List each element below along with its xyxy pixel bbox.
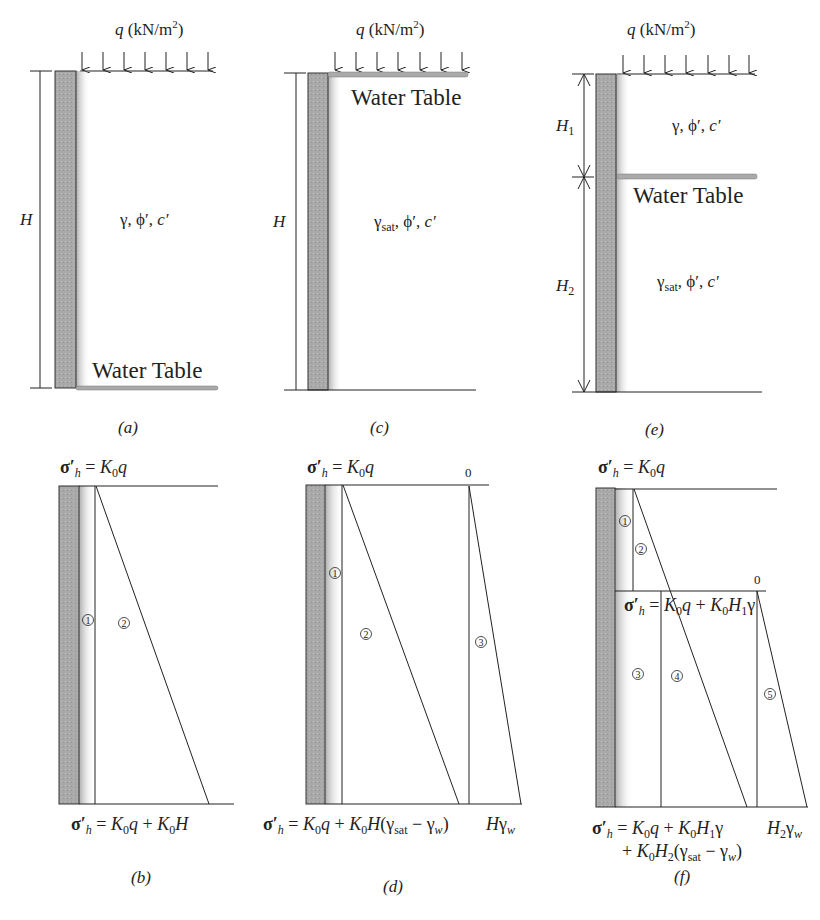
mid-zero: 0 <box>754 572 761 587</box>
pressure-diagram <box>615 489 808 807</box>
bottom-equation-line2: + K0H2(γsat − γw) <box>622 841 742 864</box>
panel-a: q (kN/m2) H γ, ϕ′, c′ Water Table (a) <box>19 18 218 437</box>
svg-text:3: 3 <box>636 669 641 680</box>
load-label: q (kN/m2) <box>627 18 695 39</box>
retaining-wall <box>308 73 328 390</box>
svg-text:2: 2 <box>639 544 644 555</box>
lateral-earth-pressure-figure: q (kN/m2) H γ, ϕ′, c′ Water Table (a) q … <box>0 0 820 920</box>
wall-shadow <box>76 71 90 388</box>
svg-text:3: 3 <box>479 637 484 648</box>
soil-props: γsat, ϕ′, c′ <box>373 212 436 234</box>
bottom-equation-line1: σ′h = K0q + K0H1γ <box>592 818 723 841</box>
top-equation: σ′h = K0q <box>598 457 665 480</box>
load-label: q (kN/m2) <box>115 18 183 39</box>
retaining-wall <box>55 71 76 388</box>
surcharge-arrows-icon <box>335 52 462 70</box>
bottom-water-pressure: H2γw <box>766 818 802 841</box>
wall-shadow <box>325 485 343 804</box>
retaining-wall <box>59 486 79 804</box>
top-equation: σ′h = K0q <box>60 457 127 480</box>
height-label: H <box>272 212 287 231</box>
retaining-wall <box>306 485 325 804</box>
pressure-diagram <box>325 485 522 804</box>
height-dimension <box>30 71 52 388</box>
caption-a: (a) <box>118 418 138 437</box>
caption-f: (f) <box>674 867 690 886</box>
height-label-h2: H2 <box>555 276 574 298</box>
panel-d: σ′h = K0q 0 1 2 3 σ′h = K0q + K0H(γsat −… <box>263 457 522 896</box>
svg-text:1: 1 <box>333 568 338 579</box>
water-table-line <box>617 174 757 179</box>
pressure-diagram <box>79 486 234 804</box>
retaining-wall <box>596 74 616 392</box>
wall-shadow <box>328 73 342 390</box>
panel-c: q (kN/m2) Water Table H γsat, ϕ′, c′ (c) <box>272 18 476 437</box>
water-table-label: Water Table <box>92 358 202 383</box>
panel-f: σ′h = K0q 1 2 3 4 5 0 σ′h = K0q + K0H1γ <box>592 457 808 886</box>
height-label: H <box>19 210 34 229</box>
soil-props-upper: γ, ϕ′, c′ <box>671 116 721 135</box>
top-zero: 0 <box>465 465 472 480</box>
caption-d: (d) <box>383 877 403 896</box>
load-label: q (kN/m2) <box>356 18 424 39</box>
svg-text:5: 5 <box>768 689 773 700</box>
height-label-h1: H1 <box>555 116 574 138</box>
top-equation: σ′h = K0q <box>307 457 374 480</box>
bottom-equation: σ′h = K0q + K0H <box>71 814 189 837</box>
wall-shadow <box>615 488 633 807</box>
zone-markers: 1 2 3 <box>330 568 487 648</box>
panel-e: q (kN/m2) Water Table H1 H2 γ, ϕ′, c′ <box>555 18 762 439</box>
panel-b: σ′h = K0q 1 2 σ′h = K0q + K0H (b) <box>59 457 234 887</box>
retaining-wall <box>596 488 615 807</box>
svg-text:1: 1 <box>623 516 628 527</box>
svg-text:2: 2 <box>122 618 127 629</box>
bottom-water-pressure: Hγw <box>485 814 515 837</box>
surcharge-arrows-icon <box>80 52 213 71</box>
wall-shadow <box>79 486 95 804</box>
caption-e: (e) <box>645 420 664 439</box>
caption-b: (b) <box>131 868 151 887</box>
caption-c: (c) <box>370 418 389 437</box>
bottom-equation: σ′h = K0q + K0H(γsat − γw) <box>263 814 449 837</box>
soil-props: γ, ϕ′, c′ <box>119 210 169 229</box>
wall-shadow <box>616 74 630 392</box>
svg-text:4: 4 <box>675 671 680 682</box>
water-table-label: Water Table <box>633 183 743 208</box>
water-table-line <box>76 386 218 390</box>
svg-text:1: 1 <box>86 615 91 626</box>
svg-text:2: 2 <box>364 629 369 640</box>
water-table-label: Water Table <box>351 85 461 110</box>
soil-props-lower: γsat, ϕ′, c′ <box>656 272 719 294</box>
mid-equation: σ′h = K0q + K0H1γ <box>624 595 755 618</box>
water-table-line <box>328 72 468 77</box>
surcharge-arrows-icon <box>617 55 755 74</box>
